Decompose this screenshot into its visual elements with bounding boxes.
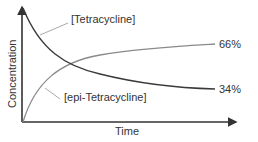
equilibrium-chart: [Tetracycline] [epi-Tetracycline] 66% 34… xyxy=(0,0,258,142)
epi-tetracycline-curve xyxy=(23,44,215,122)
epi-tetracycline-label: [epi-Tetracycline] xyxy=(64,91,147,103)
y-axis-label: Concentration xyxy=(6,40,18,109)
epi-end-value-label: 66% xyxy=(219,38,241,50)
tetracycline-label: [Tetracycline] xyxy=(71,13,135,25)
tetracycline-end-value-label: 34% xyxy=(219,83,241,95)
tetracycline-leader-line xyxy=(40,23,68,35)
x-axis-label: Time xyxy=(115,125,139,137)
epi-tetracycline-leader-line xyxy=(45,88,60,99)
